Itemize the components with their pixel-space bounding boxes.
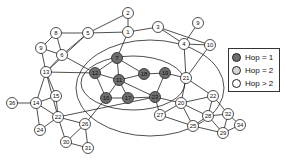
- node-21: 21: [181, 73, 192, 84]
- node-label: 17: [125, 95, 132, 101]
- node-label: 18: [141, 71, 148, 77]
- edge-n10-n21: [186, 45, 210, 78]
- node-34: 34: [235, 120, 246, 131]
- node-5: 5: [83, 28, 94, 39]
- node-24: 24: [35, 125, 46, 136]
- edge-n2-n5: [88, 13, 128, 33]
- node-label: 23: [152, 94, 159, 100]
- node-26: 26: [80, 119, 91, 130]
- node-6: 6: [57, 50, 68, 61]
- node-28: 28: [203, 111, 214, 122]
- legend: Hop = 1 Hop = 2 Hop > 2: [228, 48, 280, 92]
- hop-1-swatch-icon: [232, 53, 241, 62]
- node-label: 15: [53, 93, 60, 99]
- node-23: 23: [150, 92, 161, 103]
- node-10: 10: [205, 40, 216, 51]
- node-label: 26: [82, 121, 89, 127]
- node-label: 20: [178, 100, 185, 106]
- node-label: 19: [162, 70, 169, 76]
- node-9: 9: [193, 18, 204, 29]
- node-15: 15: [51, 91, 62, 102]
- node-29: 29: [218, 128, 229, 139]
- node-22: 22: [208, 91, 219, 102]
- legend-label: Hop > 2: [245, 79, 273, 88]
- node-16: 16: [101, 93, 112, 104]
- node-9: 9: [36, 43, 47, 54]
- edge-n13-n12: [46, 72, 95, 73]
- edge-n1-n5: [88, 32, 128, 33]
- node-30: 30: [61, 137, 72, 148]
- nodes: 2139584109671312111819211617231514362226…: [7, 8, 246, 154]
- hop-2-ring: [76, 40, 224, 136]
- node-18: 18: [139, 69, 150, 80]
- node-label: 21: [183, 75, 190, 81]
- node-label: 30: [63, 139, 70, 145]
- node-12: 12: [90, 68, 101, 79]
- node-20: 20: [176, 98, 187, 109]
- node-label: 34: [237, 122, 244, 128]
- node-label: 28: [205, 113, 212, 119]
- node-label: 22: [55, 114, 62, 120]
- node-label: 11: [116, 77, 123, 83]
- node-label: 14: [33, 100, 40, 106]
- hop-rings: [76, 40, 224, 136]
- node-label: 36: [9, 100, 16, 106]
- node-25: 25: [188, 121, 199, 132]
- node-31: 31: [83, 143, 94, 154]
- node-label: 10: [207, 42, 214, 48]
- node-11: 11: [114, 75, 125, 86]
- hop-2-swatch-icon: [232, 66, 241, 75]
- hop-gt-2-swatch-icon: [232, 79, 241, 88]
- node-27: 27: [155, 110, 166, 121]
- node-17: 17: [123, 93, 134, 104]
- node-label: 25: [190, 123, 197, 129]
- node-3: 3: [153, 22, 164, 33]
- node-label: 24: [37, 127, 44, 133]
- legend-item-hop-1: Hop = 1: [232, 51, 276, 64]
- node-4: 4: [179, 39, 190, 50]
- node-36: 36: [7, 98, 18, 109]
- node-2: 2: [123, 8, 134, 19]
- node-label: 31: [85, 145, 92, 151]
- node-13: 13: [41, 67, 52, 78]
- node-19: 19: [160, 68, 171, 79]
- node-label: 22: [210, 93, 217, 99]
- node-14: 14: [31, 98, 42, 109]
- node-label: 16: [103, 95, 110, 101]
- node-label: 27: [157, 112, 164, 118]
- legend-item-hop-gt-2: Hop > 2: [232, 77, 276, 90]
- node-32: 32: [223, 109, 234, 120]
- node-22: 22: [53, 112, 64, 123]
- node-7: 7: [112, 53, 123, 64]
- node-8: 8: [51, 28, 62, 39]
- node-label: 29: [220, 130, 227, 136]
- node-1: 1: [123, 27, 134, 38]
- legend-label: Hop = 2: [245, 66, 273, 75]
- legend-item-hop-2: Hop = 2: [232, 64, 276, 77]
- legend-label: Hop = 1: [245, 53, 273, 62]
- node-label: 13: [43, 69, 50, 75]
- node-label: 12: [92, 70, 99, 76]
- node-label: 32: [225, 111, 232, 117]
